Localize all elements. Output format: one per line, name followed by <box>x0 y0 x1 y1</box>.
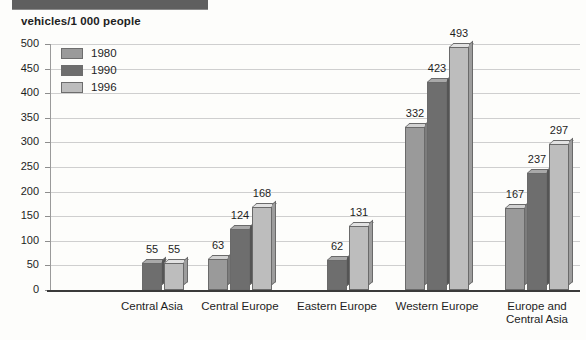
y-tick-label: 450 <box>3 62 39 74</box>
bar-slot <box>120 44 140 290</box>
axis-title: vehicles/1 000 people <box>21 15 141 27</box>
bar-value-label: 55 <box>146 243 158 255</box>
bar-value-label: 167 <box>506 188 524 200</box>
y-tick-label: 200 <box>3 185 39 197</box>
bar-slot: 168 <box>252 44 272 290</box>
y-tick-label: 500 <box>3 37 39 49</box>
bar-slot: 63 <box>208 44 228 290</box>
bar-value-label: 237 <box>528 153 546 165</box>
bar-value-label: 63 <box>212 239 224 251</box>
bar-slot <box>305 44 325 290</box>
y-tick-label: 400 <box>3 86 39 98</box>
bar <box>327 260 347 291</box>
y-tick-label: 250 <box>3 160 39 172</box>
bar <box>549 144 569 290</box>
y-tick-label: 100 <box>3 234 39 246</box>
bar-group: 167237297 <box>497 44 577 290</box>
bar-group: 63124168 <box>200 44 280 290</box>
bar-group: 332423493 <box>397 44 477 290</box>
bar-group: 5555 <box>112 44 192 290</box>
bar <box>230 229 250 290</box>
bar-slot: 493 <box>449 44 469 290</box>
bar-slot: 55 <box>142 44 162 290</box>
bar <box>208 259 228 290</box>
bar <box>252 207 272 290</box>
bar-slot: 423 <box>427 44 447 290</box>
y-tick-label: 300 <box>3 135 39 147</box>
title-bar-strip <box>12 0 208 10</box>
bar-slot: 131 <box>349 44 369 290</box>
bar-group: 62131 <box>297 44 377 290</box>
bar <box>427 82 447 290</box>
bar-slot: 332 <box>405 44 425 290</box>
bar-value-label: 423 <box>428 62 446 74</box>
bar-slot: 167 <box>505 44 525 290</box>
chart-container: vehicles/1 000 people 500450400350300250… <box>0 0 586 340</box>
x-axis-labels: Central AsiaCentral EuropeEastern Europe… <box>47 296 580 336</box>
bar-value-label: 131 <box>350 206 368 218</box>
bar-slot: 55 <box>164 44 184 290</box>
y-tick-label: 50 <box>3 258 39 270</box>
bar-value-label: 55 <box>168 243 180 255</box>
bar-slot: 62 <box>327 44 347 290</box>
bar-slot: 124 <box>230 44 250 290</box>
bar-value-label: 124 <box>231 209 249 221</box>
bar-value-label: 297 <box>550 124 568 136</box>
bar <box>164 263 184 290</box>
bar <box>449 47 469 290</box>
x-axis-line <box>47 290 580 292</box>
bar <box>142 263 162 290</box>
x-axis-label: Eastern Europe <box>282 300 392 313</box>
bar <box>505 208 525 290</box>
bar <box>405 127 425 290</box>
x-axis-label: Western Europe <box>382 300 492 313</box>
bar-groups: 55556312416862131332423493167237297 <box>47 44 580 290</box>
y-tick-label: 0 <box>3 283 39 295</box>
bar <box>349 226 369 290</box>
x-axis-label: Central Europe <box>185 300 295 313</box>
bar <box>527 173 547 290</box>
bar-slot: 297 <box>549 44 569 290</box>
bar-slot: 237 <box>527 44 547 290</box>
bar-value-label: 168 <box>253 187 271 199</box>
bar-value-label: 493 <box>450 27 468 39</box>
y-tick-label: 150 <box>3 209 39 221</box>
bar-value-label: 332 <box>406 107 424 119</box>
y-tick-label: 350 <box>3 111 39 123</box>
x-axis-label: Europe andCentral Asia <box>482 300 586 326</box>
bar-value-label: 62 <box>331 240 343 252</box>
